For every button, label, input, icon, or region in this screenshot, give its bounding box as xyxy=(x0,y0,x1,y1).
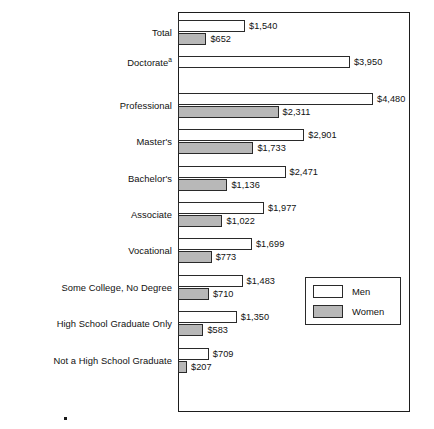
bar-value-women: $207 xyxy=(191,361,212,373)
bar-men xyxy=(178,311,237,323)
category-label: Associate xyxy=(2,209,178,220)
bar-men xyxy=(178,166,286,178)
category-label: Bachelor's xyxy=(2,173,178,184)
bar-women xyxy=(178,251,212,263)
bar-value-men: $1,977 xyxy=(268,202,296,214)
bar-men xyxy=(178,238,252,250)
bar-women xyxy=(178,179,227,191)
legend-label-women: Women xyxy=(352,306,384,317)
category-label: Total xyxy=(2,27,178,38)
bar-value-women: $1,136 xyxy=(231,179,259,191)
bar-women xyxy=(178,324,203,336)
category-label: High School Graduate Only xyxy=(2,318,178,329)
legend-swatch-men-icon xyxy=(313,285,343,298)
legend-item-men: Men xyxy=(313,284,370,298)
bar-value-women: $1,022 xyxy=(226,215,254,227)
stray-dot-artifact xyxy=(64,417,67,420)
bar-women xyxy=(178,106,279,118)
bar-value-women: $1,733 xyxy=(257,142,285,154)
bar-value-women: $652 xyxy=(210,33,231,45)
category-label: Doctoratea xyxy=(2,57,178,68)
bar-value-women: $773 xyxy=(216,251,237,263)
bar-women xyxy=(178,142,253,154)
category-label: Vocational xyxy=(2,245,178,256)
bar-value-women: $2,311 xyxy=(283,106,311,118)
bar-men xyxy=(178,275,243,287)
chart-legend: Men Women xyxy=(305,277,401,325)
bar-value-men: $709 xyxy=(213,348,234,360)
footnote-marker: a xyxy=(168,56,172,63)
bar-men xyxy=(178,129,304,141)
category-label: Some College, No Degree xyxy=(2,282,178,293)
bar-women xyxy=(178,215,222,227)
bar-value-men: $1,699 xyxy=(256,238,284,250)
bar-value-men: $4,480 xyxy=(377,93,405,105)
bar-men xyxy=(178,202,264,214)
bar-men xyxy=(178,93,373,105)
bar-men xyxy=(178,20,245,32)
legend-label-men: Men xyxy=(352,286,370,297)
bar-women xyxy=(178,288,209,300)
bar-men xyxy=(178,56,350,68)
horizontal-bar-chart: TotalDoctorateaProfessionalMaster'sBache… xyxy=(0,0,434,429)
legend-swatch-women-icon xyxy=(313,305,343,318)
bar-value-women: $583 xyxy=(207,324,228,336)
legend-item-women: Women xyxy=(313,304,384,318)
bar-value-women: $710 xyxy=(213,288,234,300)
category-label: Master's xyxy=(2,136,178,147)
bar-value-men: $2,901 xyxy=(308,129,336,141)
bar-value-men: $1,540 xyxy=(249,20,277,32)
category-label: Not a High School Graduate xyxy=(2,355,178,366)
bar-value-men: $1,483 xyxy=(247,275,275,287)
bar-value-men: $3,950 xyxy=(354,56,382,68)
bar-men xyxy=(178,348,209,360)
bar-value-men: $2,471 xyxy=(290,166,318,178)
bar-women xyxy=(178,33,206,45)
category-label: Professional xyxy=(2,100,178,111)
bar-value-men: $1,350 xyxy=(241,311,269,323)
bar-women xyxy=(178,361,187,373)
